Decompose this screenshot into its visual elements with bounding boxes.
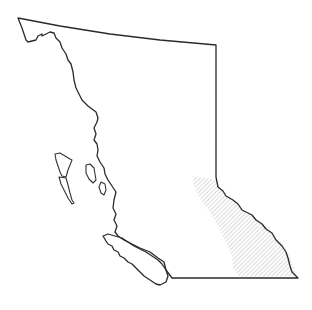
province-map — [0, 0, 312, 310]
haida-gwaii-south-island — [59, 177, 74, 204]
coastal-island-south — [99, 182, 106, 195]
hatched-region — [193, 176, 296, 277]
vancouver-island — [103, 234, 168, 285]
haida-gwaii-north-island — [55, 153, 72, 177]
map-container: British Columbia outline Southeastern re… — [0, 0, 312, 310]
coastal-island-north — [86, 164, 96, 183]
